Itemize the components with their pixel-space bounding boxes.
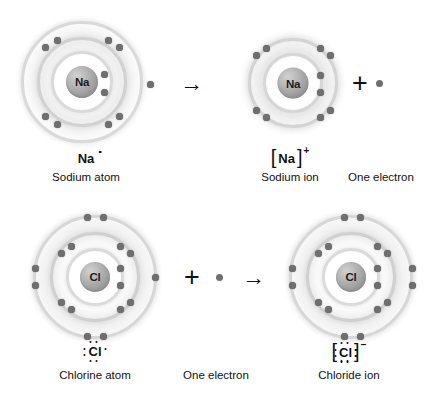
electron [117, 306, 124, 313]
valence-electron [152, 274, 159, 281]
electron [384, 299, 391, 306]
sodium-lewis-core: Na [77, 152, 96, 165]
reaction-arrow: → [242, 266, 265, 289]
valence-dot [84, 354, 86, 356]
electron [105, 121, 112, 128]
chloride-ion-caption: Chloride ion [318, 370, 379, 382]
valence-dot [346, 360, 348, 362]
electron [68, 306, 75, 313]
valence-electron [357, 214, 364, 221]
electron [117, 265, 124, 272]
chlorine-atom-caption: Chlorine atom [59, 370, 131, 382]
bracket-left: [ [271, 147, 277, 167]
valence-dot [99, 151, 101, 153]
nucleus: Cl [336, 262, 366, 292]
electron [327, 107, 334, 114]
electron [42, 113, 49, 120]
bracket-left: [ [332, 341, 338, 361]
electron [105, 37, 112, 44]
chloride-ion-symbol: [ Cl ] − [332, 342, 367, 362]
charge-label: − [361, 340, 367, 350]
bracket-right: ] [354, 341, 360, 361]
chlorine-atom: Cl [28, 212, 162, 342]
valence-dot [104, 348, 106, 350]
electron [317, 114, 324, 121]
electron [317, 45, 324, 52]
reaction-arrow: → [180, 72, 203, 95]
electron [116, 44, 123, 51]
electron [54, 121, 61, 128]
electron [58, 299, 65, 306]
electron [101, 71, 108, 78]
electron [325, 306, 332, 313]
electron [101, 89, 108, 96]
one-electron-caption-bottom: One electron [183, 370, 249, 382]
bracket-right: ] [297, 147, 303, 167]
one-electron-caption-top: One electron [348, 172, 414, 184]
valence-dot [334, 355, 336, 357]
electron [58, 250, 65, 257]
valence-electron [32, 265, 39, 272]
valence-electron [341, 333, 348, 340]
electron [54, 37, 61, 44]
valence-electron [409, 282, 416, 289]
ionic-bonding-diagram: Na → Na [0, 0, 434, 397]
chloride-lewis-core: Cl [338, 346, 353, 359]
valence-electron [100, 333, 107, 340]
valence-dot [96, 360, 98, 362]
electron [117, 282, 124, 289]
electron [315, 299, 322, 306]
electron [325, 243, 332, 250]
electron [117, 243, 124, 250]
chlorine-symbol: Cl [88, 345, 103, 358]
charge-label: + [303, 146, 309, 156]
sodium-ion-symbol: [ Na ] + [271, 148, 310, 168]
nucleus: Na [278, 68, 309, 99]
electron [127, 250, 134, 257]
sodium-ion-lewis-core: Na [277, 152, 296, 165]
valence-electron [341, 214, 348, 221]
valence-electron [32, 282, 39, 289]
electron [68, 243, 75, 250]
chlorine-lewis-core: Cl [88, 345, 103, 358]
electron [42, 44, 49, 51]
electron [374, 282, 381, 289]
sodium-atom: Na [12, 22, 152, 142]
nucleus: Cl [80, 262, 110, 292]
electron [253, 107, 260, 114]
free-electron [216, 274, 223, 281]
valence-dot [340, 360, 342, 362]
electron [327, 52, 334, 59]
valence-dot [84, 348, 86, 350]
plus-operator: + [184, 264, 200, 291]
sodium-symbol: Na [77, 152, 96, 165]
nucleus: Na [66, 66, 98, 98]
chloride-ion: Cl [285, 212, 417, 342]
electron [374, 243, 381, 250]
sodium-ion: Na [243, 33, 343, 133]
valence-dot [346, 342, 348, 344]
valence-electron [289, 265, 296, 272]
sodium-ion-caption: Sodium ion [261, 172, 319, 184]
valence-electron [289, 282, 296, 289]
plus-operator: + [352, 70, 368, 97]
electron [317, 89, 324, 96]
free-electron [376, 80, 383, 87]
valence-dot [334, 349, 336, 351]
valence-electron [147, 81, 154, 88]
electron [374, 306, 381, 313]
electron [315, 250, 322, 257]
valence-electron [84, 214, 91, 221]
valence-electron [409, 265, 416, 272]
electron [384, 250, 391, 257]
electron [127, 299, 134, 306]
valence-dot [340, 342, 342, 344]
electron [116, 113, 123, 120]
valence-electron [84, 333, 91, 340]
electron [317, 72, 324, 79]
sodium-atom-caption: Sodium atom [52, 172, 120, 184]
electron [263, 114, 270, 121]
electron [263, 45, 270, 52]
electron [253, 52, 260, 59]
valence-electron [100, 214, 107, 221]
